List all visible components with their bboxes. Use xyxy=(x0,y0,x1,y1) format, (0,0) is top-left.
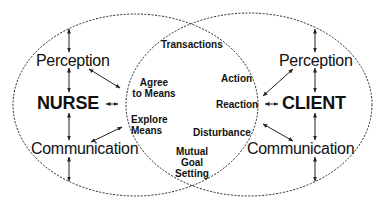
client-communication-diagonal-arrow xyxy=(263,124,293,141)
nurse-client-transaction-diagram: Perception NURSE Communication Perceptio… xyxy=(0,0,388,207)
mutual-line-2: Goal xyxy=(170,157,214,168)
nurse-perception-diagonal-arrow xyxy=(89,69,120,88)
nurse-title: NURSE xyxy=(37,94,99,112)
client-title: CLIENT xyxy=(282,94,346,112)
nurse-communication-label: Communication xyxy=(31,141,138,157)
mutual-line-1: Mutual xyxy=(170,146,214,157)
disturbance-label: Disturbance xyxy=(193,127,251,138)
client-perception-diagonal-arrow xyxy=(263,69,293,96)
agree-line-1: Agree xyxy=(130,77,178,88)
action-label: Action xyxy=(221,73,252,84)
explore-line-1: Explore xyxy=(131,114,168,125)
client-communication-label: Communication xyxy=(247,141,354,157)
transactions-label: Transactions xyxy=(161,39,223,50)
client-perception-label: Perception xyxy=(279,53,353,69)
nurse-perception-label: Perception xyxy=(36,53,110,69)
explore-means-label: Explore Means xyxy=(131,114,168,136)
mutual-line-3: Setting xyxy=(170,168,214,179)
agree-line-2: to Means xyxy=(130,88,178,99)
reaction-label: Reaction xyxy=(216,99,258,110)
explore-line-2: Means xyxy=(131,125,168,136)
mutual-goal-setting-label: Mutual Goal Setting xyxy=(170,146,214,179)
agree-to-means-label: Agree to Means xyxy=(130,77,178,99)
